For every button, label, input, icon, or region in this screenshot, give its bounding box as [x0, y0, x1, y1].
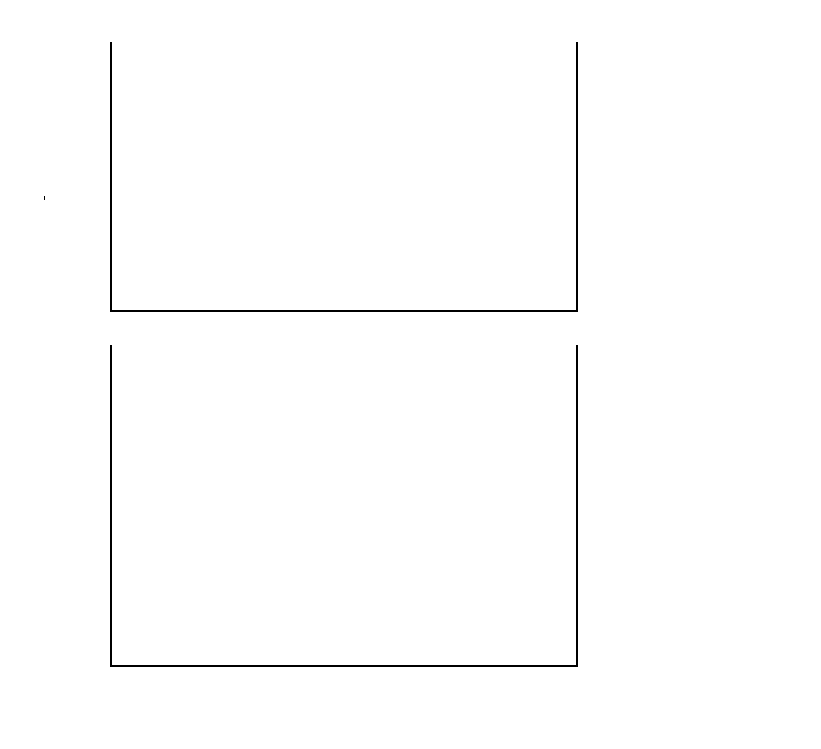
- panel-a-sum-annotation: [638, 186, 642, 208]
- panel-b-plot-area: [110, 345, 578, 667]
- x-axis-labels: [110, 672, 578, 728]
- panel-a-plot-area: [110, 42, 578, 312]
- y-axis-fraction: [43, 196, 46, 200]
- y-axis-denominator: [44, 196, 46, 200]
- panel-b-sum-annotation: [638, 485, 646, 507]
- y-axis-label: [24, 0, 64, 200]
- figure: [0, 0, 821, 749]
- panel-a-bars: [110, 42, 578, 312]
- panel-b-bars: [110, 345, 578, 667]
